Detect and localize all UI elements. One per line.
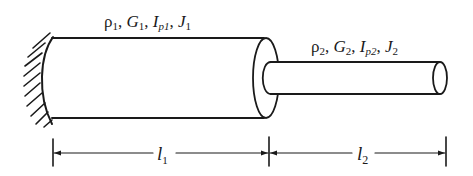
segment1-properties-label: ρ1, G1, Ip1, J1 <box>104 12 191 32</box>
segment2-properties-label: ρ2, G2, Ip2, J2 <box>311 37 398 57</box>
fixed-wall <box>24 33 53 127</box>
stepped-shaft-diagram: ρ1, G1, Ip1, J1 ρ2, G2, Ip2, J2 l1 l2 <box>0 0 473 176</box>
segment2-shaft <box>263 62 447 94</box>
length-l1-label: l1 <box>157 143 168 166</box>
arrowhead-l1-left <box>54 151 61 156</box>
dimension-lines <box>53 137 446 166</box>
segment1-cylinder <box>52 38 279 118</box>
length-l2-label: l2 <box>357 143 368 167</box>
arrowhead-l1-right <box>261 151 268 156</box>
wall-curve <box>42 37 53 124</box>
arrowhead-l2-left <box>270 151 277 156</box>
arrowhead-l2-right <box>438 151 445 156</box>
